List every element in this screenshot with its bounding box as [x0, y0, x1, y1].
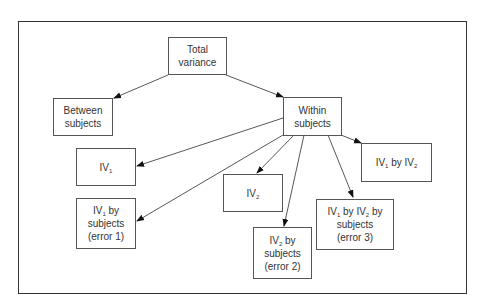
node-iv1-by-subjects: IV1 bysubjects(error 1): [76, 198, 136, 249]
subscript: 1: [109, 168, 112, 174]
node-between-subjects: Betweensubjects: [53, 98, 113, 136]
edge-total-between: [114, 75, 168, 98]
node-label: by IV: [388, 157, 414, 168]
node-iv2: IV2: [223, 174, 283, 212]
node-label: IV: [100, 162, 109, 173]
edge-within-iv1-iv2: [341, 135, 361, 143]
node-label: by: [369, 206, 382, 217]
node-label: IV: [93, 205, 102, 216]
node-iv2-by-subjects: IV2 bysubjects(error 2): [253, 227, 312, 279]
node-iv1-by-iv2: IV1 by IV2: [361, 143, 432, 182]
node-iv1-by-iv2-by-subjects: IV1 by IV2 bysubjects(error 3): [316, 199, 394, 250]
node-label: by: [282, 235, 295, 246]
node-label: by: [106, 205, 119, 216]
subscript: 2: [414, 163, 417, 169]
edge-total-within: [226, 75, 283, 97]
node-label: subjects: [88, 218, 125, 229]
node-label: Between: [64, 105, 103, 116]
node-label: subjects: [294, 118, 331, 129]
node-label: subjects: [337, 219, 374, 230]
node-label: subjects: [65, 118, 102, 129]
subscript: 2: [256, 194, 259, 200]
edge-within-iv2: [257, 135, 294, 173]
edge-within-iv2-subj: [284, 135, 304, 226]
node-label: by IV: [340, 206, 366, 217]
node-label: IV: [247, 188, 256, 199]
edge-within-iv1: [137, 118, 283, 166]
node-label: (error 2): [264, 261, 300, 272]
node-label: variance: [179, 57, 217, 68]
node-label: subjects: [264, 248, 301, 259]
node-label: (error 1): [88, 231, 124, 242]
node-label: IV: [327, 206, 336, 217]
node-label: Total: [187, 44, 208, 55]
node-label: IV: [269, 235, 278, 246]
node-label: IV: [376, 157, 385, 168]
node-label: Within: [299, 105, 327, 116]
node-within-subjects: Withinsubjects: [283, 97, 342, 136]
edge-within-iv1-iv2-subj: [328, 135, 353, 197]
node-label: (error 3): [337, 232, 373, 243]
node-total-variance: Totalvariance: [168, 37, 227, 75]
node-iv1: IV1: [76, 148, 136, 186]
